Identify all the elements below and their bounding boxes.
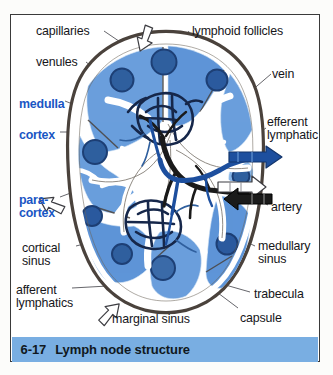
label-lymphoid-follicles: lymphoid follicles: [192, 25, 283, 38]
label-capillaries: capillaries: [36, 25, 89, 38]
caption-number: 6-17: [21, 342, 47, 357]
label-cortex: cortex: [19, 129, 55, 142]
label-medullary-sinus: medullary sinus: [258, 240, 310, 266]
label-venules: venules: [36, 56, 78, 69]
label-paracortex: para- cortex: [19, 194, 55, 220]
label-cortical-sinus: cortical sinus: [22, 242, 60, 268]
label-efferent-lymphatic: efferent lymphatic: [267, 116, 318, 142]
figure-caption-bar: 6-17 Lymph node structure: [12, 337, 319, 362]
label-trabecula: trabecula: [254, 288, 304, 301]
label-afferent-lymphatics: afferent lymphatics: [16, 284, 73, 310]
label-medulla: medulla: [19, 98, 64, 111]
label-vein: vein: [272, 68, 294, 81]
label-artery: artery: [271, 201, 302, 214]
figure-canvas: capillaries lymphoid follicles venules v…: [0, 0, 333, 375]
label-marginal-sinus: marginal sinus: [112, 313, 190, 326]
caption-text: Lymph node structure: [55, 342, 190, 357]
label-capsule: capsule: [240, 312, 282, 325]
